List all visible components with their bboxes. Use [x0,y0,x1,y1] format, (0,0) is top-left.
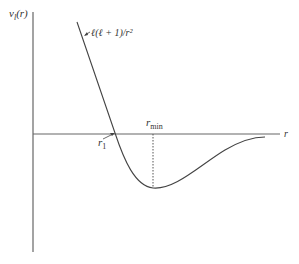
y-label-sub: l [14,13,16,22]
effective-potential-diagram [0,0,299,264]
curve-annotation: ℓ(ℓ + 1)/r² [91,28,132,38]
rmin-label-sub: min [150,122,162,131]
y-axis-label: vl(r) [9,8,28,19]
r1-label-sub: 1 [102,142,106,151]
x-axis-label: r [284,129,288,139]
annotation-arrowhead [84,32,88,36]
rmin-label: rmin [146,117,163,128]
potential-curve [77,22,265,188]
r1-label: r1 [98,137,106,148]
y-label-arg: (r) [16,7,28,19]
